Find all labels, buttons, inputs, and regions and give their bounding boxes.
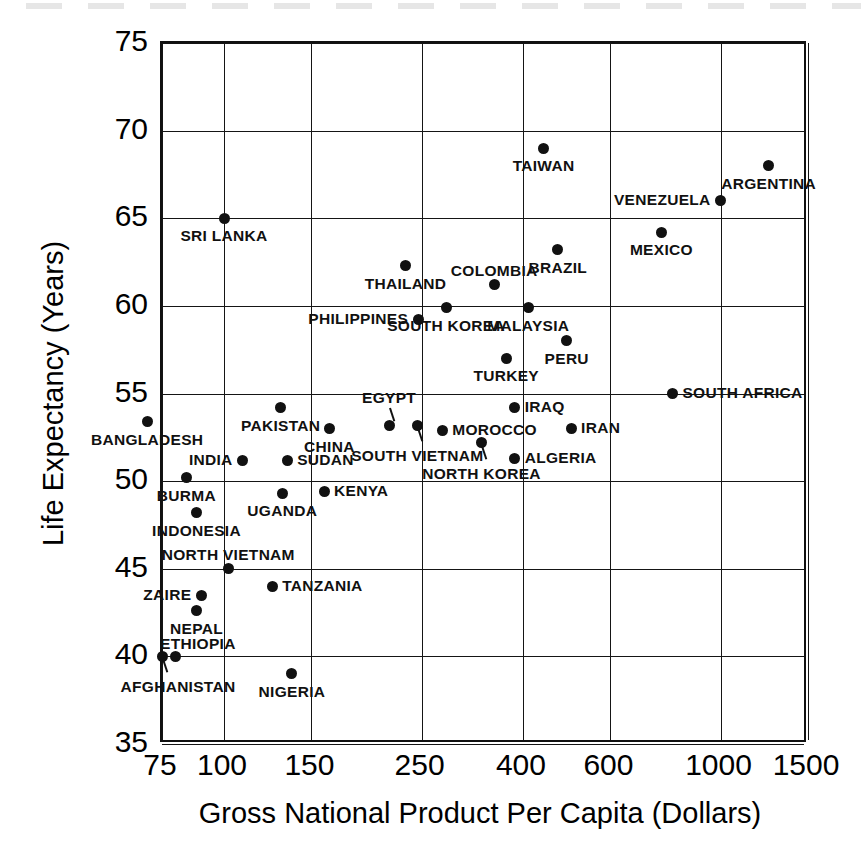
- point-label-north-korea: NORTH KOREA: [422, 465, 541, 482]
- data-point-south-korea: [441, 302, 452, 313]
- data-point-malaysia: [523, 302, 534, 313]
- point-label-zaire: ZAIRE: [143, 586, 191, 603]
- point-label-malaysia: MALAYSIA: [487, 317, 569, 334]
- point-label-iran: IRAN: [581, 419, 620, 436]
- gridline-vertical-150: [311, 43, 312, 740]
- point-label-indonesia: INDONESIA: [152, 522, 241, 539]
- point-label-ethiopia: ETHIOPIA: [160, 635, 236, 652]
- y-tick-label-40: 40: [115, 637, 148, 671]
- point-label-morocco: MOROCCO: [452, 421, 537, 438]
- data-point-mexico: [656, 227, 667, 238]
- point-label-venezuela: VENEZUELA: [614, 191, 711, 208]
- x-tick-label-1500: 1500: [773, 748, 840, 782]
- x-tick-label-250: 250: [395, 748, 445, 782]
- point-label-taiwan: TAIWAN: [513, 157, 575, 174]
- gridline-horizontal-65: [162, 218, 804, 219]
- data-point-burma: [181, 472, 192, 483]
- data-point-uganda: [277, 488, 288, 499]
- plot-area: AFGHANISTANETHIOPIANEPALZAIRENORTH VIETN…: [160, 41, 806, 742]
- point-label-nigeria: NIGERIA: [259, 683, 326, 700]
- y-tick-label-65: 65: [115, 199, 148, 233]
- point-label-colombia: COLOMBIA: [451, 262, 538, 279]
- data-point-venezuela: [715, 195, 726, 206]
- point-label-iraq: IRAQ: [525, 398, 565, 415]
- y-tick-label-45: 45: [115, 550, 148, 584]
- point-label-egypt: EGYPT: [362, 389, 416, 406]
- data-point-kenya: [319, 486, 330, 497]
- gridline-vertical-600: [610, 43, 611, 740]
- data-point-taiwan: [538, 143, 549, 154]
- point-label-argentina: ARGENTINA: [721, 175, 816, 192]
- y-tick-label-75: 75: [115, 24, 148, 58]
- data-point-colombia: [489, 279, 500, 290]
- data-point-nigeria: [286, 668, 297, 679]
- gridline-horizontal-45: [162, 569, 804, 570]
- point-label-thailand: THAILAND: [365, 275, 447, 292]
- data-point-ethiopia: [170, 651, 181, 662]
- x-tick-label-150: 150: [284, 748, 334, 782]
- point-label-uganda: UGANDA: [247, 502, 317, 519]
- scan-artifact: [0, 3, 861, 9]
- point-label-burma: BURMA: [157, 487, 216, 504]
- data-point-north-vietnam: [223, 563, 234, 574]
- gridline-horizontal-35: [162, 744, 804, 745]
- x-tick-label-400: 400: [496, 748, 546, 782]
- y-tick-label-50: 50: [115, 462, 148, 496]
- point-label-sri-lanka: SRI LANKA: [180, 227, 267, 244]
- data-point-nepal: [191, 605, 202, 616]
- point-label-south-africa: SOUTH AFRICA: [682, 384, 802, 401]
- data-point-argentina: [763, 160, 774, 171]
- data-point-china: [324, 423, 335, 434]
- x-axis-title: Gross National Product Per Capita (Dolla…: [130, 797, 830, 830]
- y-tick-label-55: 55: [115, 375, 148, 409]
- point-label-brazil: BRAZIL: [528, 259, 587, 276]
- gridline-horizontal-40: [162, 656, 804, 657]
- y-axis-tick-labels: 354045505560657075: [72, 41, 148, 742]
- gridline-horizontal-70: [162, 131, 804, 132]
- point-label-north-vietnam: NORTH VIETNAM: [162, 546, 295, 563]
- point-label-china: CHINA: [304, 438, 355, 455]
- data-point-sudan: [282, 455, 293, 466]
- y-axis-title: Life Expectancy (Years): [37, 114, 70, 674]
- y-tick-label-70: 70: [115, 112, 148, 146]
- point-label-pakistan: PAKISTAN: [241, 417, 320, 434]
- gridline-vertical-250: [422, 43, 423, 740]
- gridline-vertical-400: [523, 43, 524, 740]
- point-label-south-vietnam: SOUTH VIETNAM: [351, 447, 483, 464]
- x-axis-tick-labels: 7510015025040060010001500: [160, 748, 806, 788]
- point-label-india: INDIA: [189, 451, 233, 468]
- x-tick-label-75: 75: [143, 748, 176, 782]
- data-point-zaire: [196, 590, 207, 601]
- data-point-tanzania: [267, 581, 278, 592]
- data-point-sri-lanka: [219, 213, 230, 224]
- data-point-peru: [561, 335, 572, 346]
- data-point-algeria: [509, 453, 520, 464]
- data-point-indonesia: [191, 507, 202, 518]
- gridline-vertical-1500: [808, 43, 809, 740]
- gridline-horizontal-75: [162, 43, 804, 44]
- point-label-nepal: NEPAL: [170, 620, 223, 637]
- x-tick-label-1000: 1000: [685, 748, 752, 782]
- data-point-turkey: [501, 353, 512, 364]
- data-point-brazil: [552, 244, 563, 255]
- data-point-pakistan: [275, 402, 286, 413]
- data-point-iran: [566, 423, 577, 434]
- point-label-mexico: MEXICO: [630, 241, 693, 258]
- point-label-kenya: KENYA: [334, 482, 388, 499]
- point-label-tanzania: TANZANIA: [282, 577, 362, 594]
- data-point-iraq: [509, 402, 520, 413]
- x-tick-label-600: 600: [583, 748, 633, 782]
- data-point-south-africa: [667, 388, 678, 399]
- point-label-turkey: TURKEY: [473, 367, 539, 384]
- point-label-algeria: ALGERIA: [525, 449, 597, 466]
- data-point-india: [237, 455, 248, 466]
- data-point-thailand: [400, 260, 411, 271]
- life-expectancy-vs-gnp-scatter-chart: AFGHANISTANETHIOPIANEPALZAIRENORTH VIETN…: [0, 0, 861, 858]
- x-tick-label-100: 100: [197, 748, 247, 782]
- data-point-morocco: [437, 425, 448, 436]
- y-tick-label-60: 60: [115, 287, 148, 321]
- gridline-horizontal-60: [162, 306, 804, 307]
- point-label-peru: PERU: [545, 350, 589, 367]
